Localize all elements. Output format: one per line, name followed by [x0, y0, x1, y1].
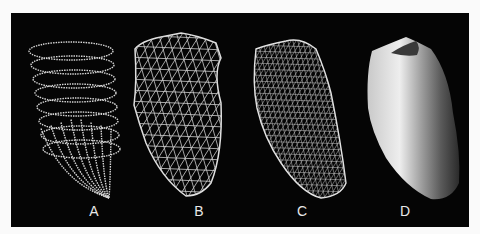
panel-d-solid: [368, 37, 460, 199]
mesh-line: [249, 189, 351, 192]
mesh-line: [249, 63, 351, 66]
mesh-line: [249, 195, 351, 198]
panel-label-a: A: [84, 203, 104, 219]
panel-label-d: D: [395, 203, 415, 219]
panel-label-c: C: [292, 203, 312, 219]
mesh-line: [249, 51, 351, 54]
mesh-line: [139, 28, 189, 203]
mesh-line: [121, 28, 171, 203]
mesh-line: [229, 28, 279, 203]
mesh-line: [22, 28, 72, 203]
contour-ring: [29, 42, 113, 60]
panel-a-rings: [29, 42, 120, 198]
mesh-line: [58, 28, 168, 203]
meridian-line: [109, 129, 111, 199]
contour-ring: [35, 84, 116, 102]
mesh-line: [126, 35, 226, 39]
mesh-line: [126, 178, 226, 182]
mesh-line: [126, 189, 226, 193]
mesh-line: [220, 28, 270, 203]
mesh-line: [249, 147, 351, 150]
mesh-line: [126, 200, 226, 204]
mesh-line: [148, 28, 198, 203]
contour-ring: [39, 112, 118, 130]
figure-panel: A B C D: [11, 13, 469, 227]
contour-ring: [33, 70, 115, 88]
contour-ring: [37, 98, 117, 116]
mesh-line: [249, 165, 351, 168]
mesh-line: [157, 28, 207, 203]
contour-ring: [31, 56, 114, 74]
mesh-line: [40, 28, 150, 203]
mesh-line: [85, 28, 195, 203]
mesh-line: [126, 167, 226, 171]
panel-label-b: B: [189, 203, 209, 219]
mesh-line: [13, 28, 63, 203]
figure-graphics: [11, 13, 469, 227]
mesh-line: [126, 46, 226, 50]
mesh-line: [211, 33, 251, 203]
mesh-line: [126, 79, 226, 83]
mesh-line: [40, 28, 90, 203]
mesh-line: [76, 28, 186, 203]
mesh-line: [103, 28, 213, 203]
mesh-line: [249, 141, 351, 144]
mesh-line: [181, 33, 286, 203]
mesh-line: [126, 134, 226, 138]
mesh-line: [249, 57, 351, 60]
